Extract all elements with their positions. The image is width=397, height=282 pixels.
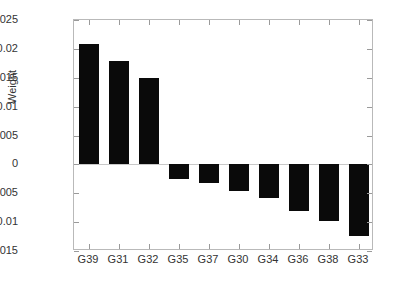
bar <box>79 44 99 165</box>
y-tick-mark-right <box>367 164 372 165</box>
x-tick-mark <box>269 244 270 249</box>
y-tick-mark-right <box>367 78 372 79</box>
x-tick-mark <box>89 244 90 249</box>
y-tick-mark <box>74 20 79 21</box>
y-axis-tick-label: -0.01 <box>0 216 18 227</box>
bar <box>349 164 369 236</box>
y-tick-mark <box>74 136 79 137</box>
bar <box>169 164 189 178</box>
x-tick-mark-top <box>269 20 270 25</box>
x-tick-mark-top <box>329 20 330 25</box>
bar <box>199 164 219 182</box>
bar <box>229 164 249 191</box>
x-tick-mark <box>329 244 330 249</box>
y-axis-tick-label: 0.025 <box>0 14 18 25</box>
y-tick-mark <box>74 107 79 108</box>
y-tick-mark <box>74 251 79 252</box>
x-tick-mark <box>149 244 150 249</box>
y-axis-tick-label: -0.005 <box>0 187 18 198</box>
y-tick-mark <box>74 193 79 194</box>
y-axis-tick-label: 0.005 <box>0 130 18 141</box>
y-tick-mark <box>74 78 79 79</box>
chart-screenshot: Weight 0.0250.020.0150.010.0050-0.005-0.… <box>0 0 397 282</box>
x-tick-mark-top <box>239 20 240 25</box>
y-axis-tick-label: -0.015 <box>0 245 18 256</box>
y-tick-mark-right <box>367 222 372 223</box>
y-axis-tick-label: 0.015 <box>0 72 18 83</box>
bar <box>139 78 159 165</box>
y-tick-mark-right <box>367 136 372 137</box>
x-tick-mark-top <box>149 20 150 25</box>
x-tick-mark-top <box>179 20 180 25</box>
x-tick-mark <box>209 244 210 249</box>
x-tick-mark <box>179 244 180 249</box>
x-tick-mark <box>119 244 120 249</box>
bar <box>109 61 129 164</box>
bar <box>319 164 339 221</box>
bar <box>259 164 279 197</box>
x-tick-mark <box>299 244 300 249</box>
x-tick-mark-top <box>299 20 300 25</box>
y-tick-mark <box>74 49 79 50</box>
plot-area <box>73 19 373 250</box>
y-tick-mark-right <box>367 107 372 108</box>
x-tick-mark <box>359 244 360 249</box>
y-tick-mark-right <box>367 20 372 21</box>
x-tick-mark-top <box>119 20 120 25</box>
x-tick-mark <box>239 244 240 249</box>
y-axis-tick-label: 0 <box>0 158 18 169</box>
x-tick-mark-top <box>359 20 360 25</box>
y-tick-mark <box>74 222 79 223</box>
x-tick-mark-top <box>209 20 210 25</box>
y-tick-mark-right <box>367 251 372 252</box>
bar-series <box>74 20 372 249</box>
y-tick-mark <box>74 164 79 165</box>
x-axis-tick-label: G33 <box>336 254 380 265</box>
y-tick-mark-right <box>367 49 372 50</box>
y-axis-tick-label: 0.01 <box>0 101 18 112</box>
x-tick-mark-top <box>89 20 90 25</box>
y-tick-mark-right <box>367 193 372 194</box>
y-axis-tick-label: 0.02 <box>0 43 18 54</box>
bar <box>289 164 309 210</box>
